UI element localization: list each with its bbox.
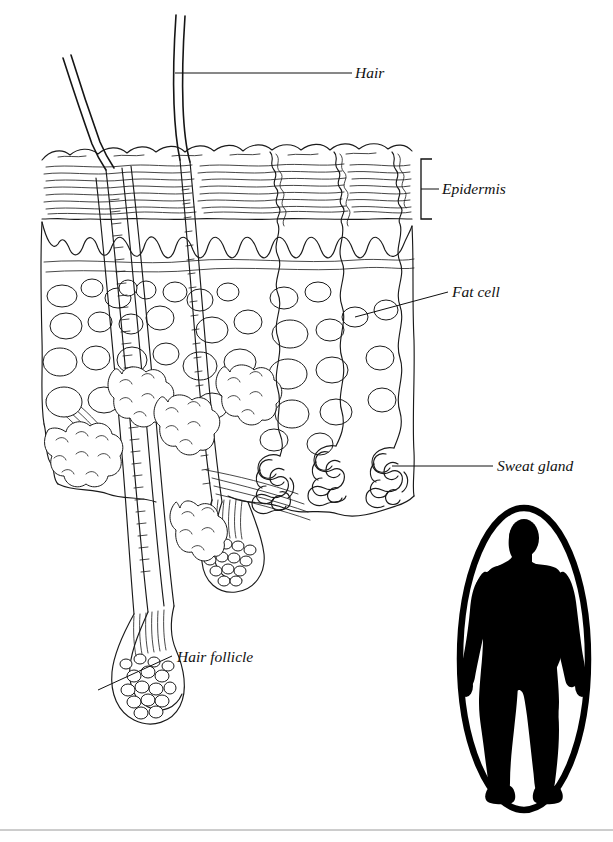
silhouette-hand-left [459, 675, 473, 697]
fat-cell [374, 300, 398, 320]
fat-cell [136, 281, 156, 299]
epidermis-label: Epidermis [441, 180, 506, 197]
fat-cell [305, 282, 331, 302]
silhouette-head [509, 519, 539, 557]
fat-cell [88, 312, 112, 332]
silhouette-foot-right [533, 785, 563, 804]
fat-cell [46, 387, 82, 417]
fat-cell [163, 282, 187, 302]
fat-cell [183, 352, 217, 380]
fat-cell [260, 429, 288, 451]
fat-cell [47, 285, 77, 307]
silhouette-neck [517, 552, 532, 564]
silhouette-torso [481, 564, 568, 685]
skin-anatomy-figure: Hair Epidermis Fat cell Sweat gland Hair… [0, 0, 613, 842]
fat-cell [196, 317, 228, 343]
fat-cell [307, 433, 333, 455]
hair-follicle-label: Hair follicle [176, 648, 253, 665]
fat-cell [50, 313, 82, 339]
sweat-gland-label: Sweat gland [497, 457, 573, 474]
fat-cell [153, 343, 179, 365]
fat-cell [320, 399, 352, 425]
fat-cell [234, 310, 262, 334]
fat-cell [146, 306, 174, 330]
fat-cell [43, 348, 77, 376]
fat-cell [368, 388, 396, 412]
fat-cell [316, 319, 344, 341]
fat-cell [119, 314, 143, 334]
hair-label: Hair [354, 64, 385, 81]
fat-cell [270, 287, 298, 309]
silhouette-foot-left [485, 785, 515, 804]
fat-cell [217, 283, 239, 301]
skin-cross-section-illustration: Hair Epidermis Fat cell Sweat gland Hair… [0, 0, 613, 842]
body-locator-inset [459, 508, 589, 810]
fat-cell [82, 346, 110, 370]
fat-cell [366, 346, 394, 370]
fat-cell-label: Fat cell [451, 283, 500, 300]
fat-cell [81, 279, 103, 297]
silhouette-hand-right [575, 675, 589, 697]
fat-cell [275, 400, 309, 428]
